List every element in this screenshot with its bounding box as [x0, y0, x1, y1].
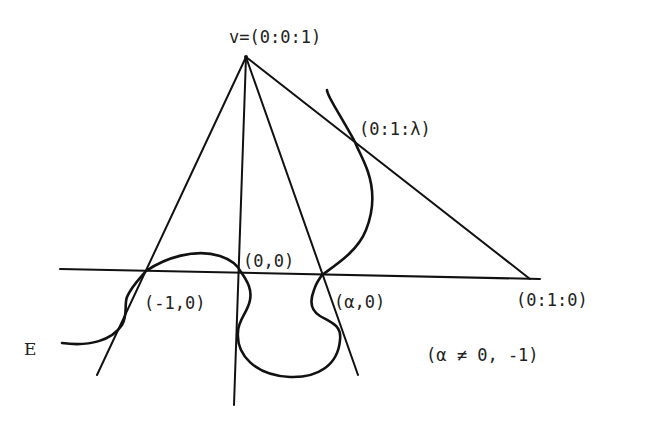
line-v-to-alpha — [246, 57, 358, 375]
origin-label: (0,0) — [243, 253, 294, 270]
tangent-point-label: (0:1:λ) — [359, 121, 431, 138]
alpha-label: (α,0) — [334, 294, 385, 311]
diagram-canvas — [0, 0, 646, 425]
line-v-to-origin — [234, 57, 246, 405]
x-axis-line — [60, 269, 540, 279]
minus-one-label: (-1,0) — [144, 295, 205, 312]
condition-label: (α ≠ 0, -1) — [426, 347, 539, 364]
vertex-label: v=(0:0:1) — [229, 29, 321, 46]
infinity-point-label: (0:1:0) — [516, 292, 588, 309]
curve-label-E: E — [24, 341, 36, 358]
vertex-point — [244, 55, 248, 59]
line-v-to-infinity — [246, 57, 530, 279]
elliptic-curve-E — [62, 90, 372, 377]
